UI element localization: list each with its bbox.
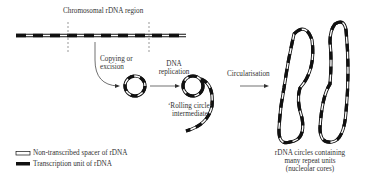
legend-open-bar-icon [16,152,30,156]
arrowhead-icon [115,84,120,88]
label-circularisation: Circularisation [227,70,270,79]
label-intermediate: intermediate [162,110,218,119]
label-result-3: (nucleolar cores) [262,165,358,174]
rdna-circle-large-2 [320,22,348,142]
legend-transcription-label: Transcription unit of rDNA [33,160,112,169]
label-chromosomal-region: Chromosomal rDNA region [63,7,143,16]
arrowhead-icon [175,84,180,88]
label-replication: replication [154,68,194,77]
legend-spacer-label: Non-transcribed spacer of rDNA [33,149,127,158]
legend-solid-bar-icon [16,162,30,166]
label-excision: excision [100,63,124,72]
arrowhead-icon [264,84,269,88]
excised-circle [125,76,145,96]
rdna-circle-large-1 [279,29,313,143]
